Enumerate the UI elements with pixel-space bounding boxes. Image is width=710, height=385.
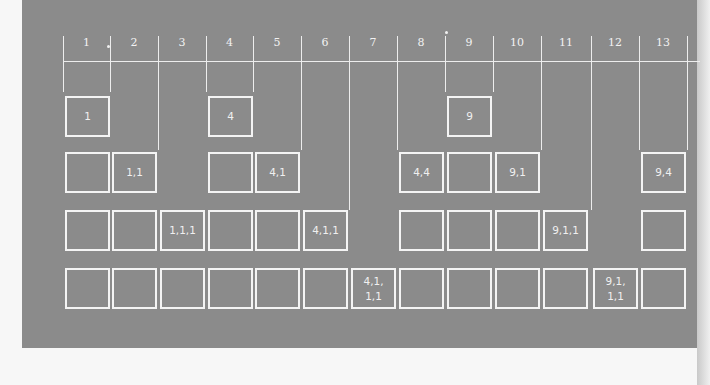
marker-dot: [445, 31, 448, 34]
column-divider: [591, 36, 592, 210]
column-header: 11: [541, 34, 591, 52]
column-header: 9: [445, 34, 493, 52]
column-header: 6: [301, 34, 349, 52]
node-box: [112, 268, 157, 309]
node-box: 9,1, 1,1: [593, 268, 638, 309]
column-divider: [397, 36, 398, 150]
node-box: 1: [65, 96, 110, 137]
node-box: [208, 210, 253, 251]
column-header: 1: [63, 34, 110, 52]
column-divider: [639, 36, 640, 150]
node-box: [447, 268, 492, 309]
column-header: 10: [493, 34, 541, 52]
node-box: 9,1: [495, 152, 540, 193]
column-header: 5: [253, 34, 301, 52]
column-header: 12: [591, 34, 639, 52]
column-divider: [349, 36, 350, 210]
node-box: 9,1,1: [543, 210, 588, 251]
column-divider: [687, 36, 688, 150]
node-box: 4,4: [399, 152, 444, 193]
node-box: [112, 210, 157, 251]
node-box: [543, 268, 588, 309]
node-box: [641, 210, 686, 251]
page-edge: [697, 0, 710, 385]
node-box: 4: [208, 96, 253, 137]
node-box: [208, 268, 253, 309]
node-box: 4,1,1: [303, 210, 348, 251]
node-box: 1,1: [112, 152, 157, 193]
node-box: [641, 268, 686, 309]
column-header: 3: [158, 34, 206, 52]
node-box: [160, 268, 205, 309]
column-divider: [301, 36, 302, 150]
node-box: [447, 210, 492, 251]
node-box: [255, 268, 300, 309]
node-box: 4,1: [255, 152, 300, 193]
node-box: [399, 268, 444, 309]
column-header: 7: [349, 34, 397, 52]
node-box: [65, 152, 110, 193]
column-header: 8: [397, 34, 445, 52]
node-box: 1,1,1: [160, 210, 205, 251]
node-box: [255, 210, 300, 251]
node-box: [399, 210, 444, 251]
node-box: 9,4: [641, 152, 686, 193]
column-header: 13: [639, 34, 687, 52]
column-header: 4: [206, 34, 253, 52]
node-box: [65, 268, 110, 309]
marker-dot: [107, 45, 110, 48]
column-divider: [541, 36, 542, 150]
node-box: 4,1, 1,1: [351, 268, 396, 309]
node-box: 9: [447, 96, 492, 137]
node-box: [495, 268, 540, 309]
column-header: 2: [110, 34, 158, 52]
node-box: [65, 210, 110, 251]
node-box: [447, 152, 492, 193]
node-box: [495, 210, 540, 251]
node-box: [208, 152, 253, 193]
node-box: [303, 268, 348, 309]
column-divider: [158, 36, 159, 150]
